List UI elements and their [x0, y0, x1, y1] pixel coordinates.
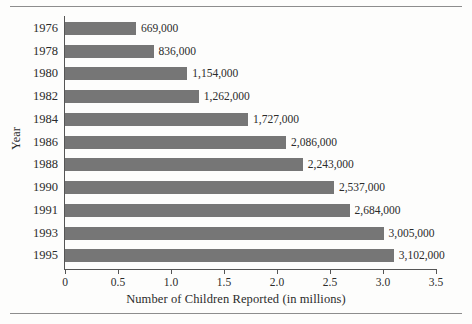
x-axis-tick-label: 3.5: [416, 276, 456, 288]
bottom-divider-rule: [10, 313, 462, 314]
x-axis-tick: [224, 269, 225, 274]
bar: [65, 227, 384, 240]
y-axis-tick-label: 1980: [5, 64, 65, 83]
bar: [65, 181, 334, 194]
x-axis-tick-label: 2.0: [257, 276, 297, 288]
x-axis-tick-label: 1.5: [204, 276, 244, 288]
x-axis-tick: [330, 269, 331, 274]
x-axis-tick-label: 0: [45, 276, 85, 288]
bar-row: 19902,537,000: [65, 178, 436, 201]
plot-area: 1976669,0001978836,00019801,154,00019821…: [65, 19, 436, 269]
top-divider-rule: [10, 6, 462, 7]
bar-value-label: 1,154,000: [192, 64, 238, 83]
y-axis-tick-label: 1986: [5, 133, 65, 152]
bar: [65, 249, 394, 262]
bar-value-label: 2,684,000: [355, 201, 401, 220]
bar-row: 19821,262,000: [65, 87, 436, 110]
x-axis-tick: [436, 269, 437, 274]
chart-page: Year 1976669,0001978836,00019801,154,000…: [0, 0, 472, 324]
x-axis-tick-label: 2.5: [310, 276, 350, 288]
bar: [65, 136, 286, 149]
x-axis-tick: [383, 269, 384, 274]
y-axis-tick-label: 1993: [5, 224, 65, 243]
bar-value-label: 669,000: [141, 19, 178, 38]
y-axis-tick-label: 1984: [5, 110, 65, 129]
x-axis-tick: [65, 269, 66, 274]
bar: [65, 204, 350, 217]
x-axis-tick-label: 0.5: [98, 276, 138, 288]
y-axis-tick-label: 1990: [5, 178, 65, 197]
x-axis-tick-label: 3.0: [363, 276, 403, 288]
bar-row: 1978836,000: [65, 42, 436, 65]
y-axis-tick-label: 1995: [5, 246, 65, 265]
bar-value-label: 2,243,000: [308, 155, 354, 174]
x-axis-line: [64, 269, 436, 270]
bar: [65, 22, 136, 35]
y-axis-tick-label: 1988: [5, 155, 65, 174]
x-axis-tick: [118, 269, 119, 274]
bar-value-label: 836,000: [159, 42, 196, 61]
y-axis-tick-label: 1982: [5, 87, 65, 106]
bar-row: 1976669,000: [65, 19, 436, 42]
bar: [65, 158, 303, 171]
bar-value-label: 1,727,000: [253, 110, 299, 129]
y-axis-tick-label: 1978: [5, 42, 65, 61]
bar-rows-container: 1976669,0001978836,00019801,154,00019821…: [65, 19, 436, 269]
bar: [65, 90, 199, 103]
bar-value-label: 3,102,000: [399, 246, 445, 265]
y-axis-tick-label: 1976: [5, 19, 65, 38]
bar: [65, 113, 248, 126]
bar-row: 19862,086,000: [65, 133, 436, 156]
bar-row: 19933,005,000: [65, 224, 436, 247]
bar: [65, 45, 154, 58]
bar-value-label: 2,086,000: [291, 133, 337, 152]
y-axis-tick-label: 1991: [5, 201, 65, 220]
bar-row: 19801,154,000: [65, 64, 436, 87]
bar-row: 19912,684,000: [65, 201, 436, 224]
bar-value-label: 2,537,000: [339, 178, 385, 197]
bar: [65, 67, 187, 80]
x-axis-tick: [171, 269, 172, 274]
x-axis-tick: [277, 269, 278, 274]
bar-row: 19841,727,000: [65, 110, 436, 133]
x-axis-title: Number of Children Reported (in millions…: [0, 292, 472, 307]
x-axis-tick-label: 1.0: [151, 276, 191, 288]
bar-row: 19953,102,000: [65, 246, 436, 269]
bar-row: 19882,243,000: [65, 155, 436, 178]
bar-value-label: 1,262,000: [204, 87, 250, 106]
bar-value-label: 3,005,000: [389, 224, 435, 243]
